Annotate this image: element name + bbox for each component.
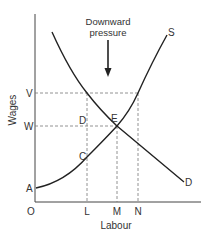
- curve-label-d: D: [185, 177, 192, 188]
- demand-curve: [52, 32, 184, 182]
- curve-label-s: S: [168, 27, 175, 38]
- origin-label: O: [27, 206, 35, 217]
- annotation-line1: Downward: [86, 16, 131, 27]
- guide-lines: [35, 93, 138, 202]
- x-axis-label: Labour: [100, 220, 132, 231]
- point-a: A: [26, 183, 33, 194]
- y-axis-label: Wages: [7, 95, 18, 126]
- tick-n: N: [134, 206, 141, 217]
- annotation-line2: pressure: [90, 27, 127, 38]
- supply-curve: [36, 35, 167, 188]
- downward-arrow-icon: [105, 40, 112, 77]
- tick-l: L: [84, 206, 90, 217]
- tick-v: V: [26, 88, 33, 99]
- point-c: C: [79, 151, 86, 162]
- wage-diagram: Downward pressure S D V W A D E C O L M …: [0, 0, 211, 231]
- tick-m: M: [113, 206, 121, 217]
- tick-w: W: [24, 121, 34, 132]
- point-e: E: [111, 113, 118, 124]
- point-d: D: [79, 115, 86, 126]
